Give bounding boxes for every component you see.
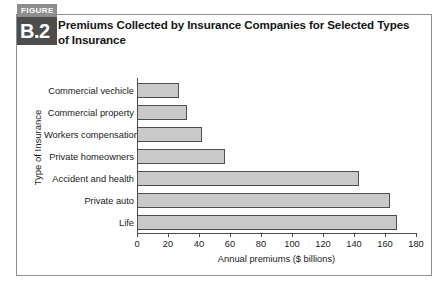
- x-axis-tick-label: 0: [122, 239, 152, 249]
- figure-badge-word: FIGURE: [17, 4, 57, 17]
- bar: [137, 215, 397, 230]
- x-axis-tick-label: 160: [370, 239, 400, 249]
- x-axis-tick: [354, 233, 355, 237]
- bar: [137, 193, 390, 208]
- x-axis-tick: [416, 233, 417, 237]
- x-axis-tick: [168, 233, 169, 237]
- x-axis-tick: [199, 233, 200, 237]
- figure-number-badge: FIGURE B.2: [17, 4, 57, 45]
- bar: [137, 105, 187, 120]
- y-axis-tick-label: Commercial vechicle: [44, 86, 134, 96]
- x-axis-tick-label: 140: [339, 239, 369, 249]
- bar: [137, 83, 179, 98]
- x-axis-tick: [323, 233, 324, 237]
- figure-container: FIGURE B.2 Premiums Collected by Insuran…: [0, 0, 445, 294]
- x-axis-tick-label: 120: [308, 239, 338, 249]
- x-axis-line: [137, 233, 416, 234]
- x-axis-tick-label: 60: [215, 239, 245, 249]
- bar: [137, 149, 225, 164]
- y-axis-tick-label: Workers compensation: [44, 130, 134, 140]
- x-axis-tick: [137, 233, 138, 237]
- x-axis-tick-label: 20: [153, 239, 183, 249]
- y-axis-tick-label: Accident and health: [44, 174, 134, 184]
- y-axis-tick-label: Life: [44, 218, 134, 228]
- x-axis-tick-label: 100: [277, 239, 307, 249]
- x-axis-tick-label: 80: [246, 239, 276, 249]
- figure-badge-number: B.2: [17, 17, 57, 45]
- chart-axes: 020406080100120140160180: [137, 78, 416, 233]
- x-axis-tick: [261, 233, 262, 237]
- x-axis-tick-label: 40: [184, 239, 214, 249]
- bar: [137, 171, 359, 186]
- y-axis-tick-label: Commercial property: [44, 108, 134, 118]
- x-axis-tick-label: 180: [401, 239, 431, 249]
- x-axis-tick: [230, 233, 231, 237]
- bar: [137, 127, 202, 142]
- x-axis-title: Annual premiums ($ billions): [137, 254, 416, 264]
- y-axis-tick-label: Private auto: [44, 196, 134, 206]
- x-axis-tick: [292, 233, 293, 237]
- x-axis-tick: [385, 233, 386, 237]
- chart-plot-area: Type of Insurance Commercial vechicleCom…: [16, 14, 432, 276]
- y-axis-tick-labels: Commercial vechicleCommercial propertyWo…: [44, 80, 134, 233]
- y-axis-title: Type of Insurance: [32, 93, 43, 203]
- y-axis-tick-label: Private homeowners: [44, 152, 134, 162]
